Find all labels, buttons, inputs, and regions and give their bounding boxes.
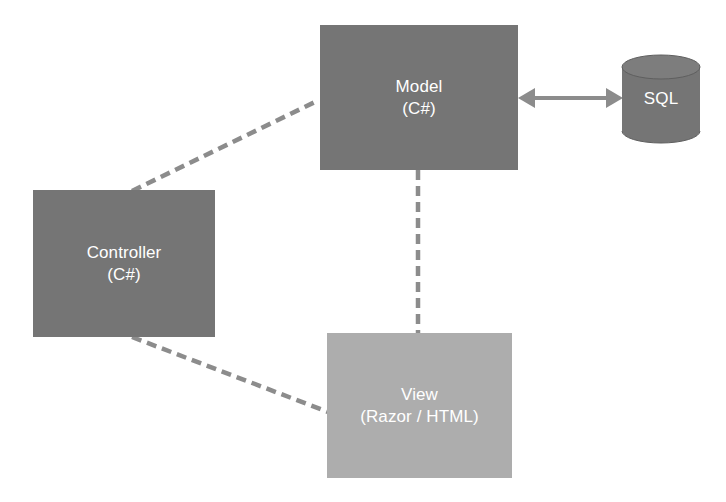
arrowhead-left-icon xyxy=(518,88,535,108)
controller-node-sublabel: (C#) xyxy=(107,264,140,286)
model-node-label: Model xyxy=(396,76,443,98)
model-node[interactable]: Model (C#) xyxy=(320,25,518,170)
view-node-sublabel: (Razor / HTML) xyxy=(360,406,479,428)
model-node-sublabel: (C#) xyxy=(402,98,435,120)
view-node-label: View xyxy=(401,384,438,406)
controller-node[interactable]: Controller (C#) xyxy=(33,190,215,337)
sql-cylinder-shape xyxy=(622,55,700,143)
view-node[interactable]: View (Razor / HTML) xyxy=(327,333,512,478)
controller-to-model-connector xyxy=(132,100,319,191)
model-to-sql-connector xyxy=(518,88,623,108)
sql-cylinder-top-icon xyxy=(622,55,700,79)
arrowhead-right-icon xyxy=(606,88,623,108)
controller-node-label: Controller xyxy=(87,242,162,264)
mvc-architecture-diagram: Model (C#) Controller (C#) View (Razor /… xyxy=(0,0,726,502)
controller-to-view-connector xyxy=(132,337,328,412)
